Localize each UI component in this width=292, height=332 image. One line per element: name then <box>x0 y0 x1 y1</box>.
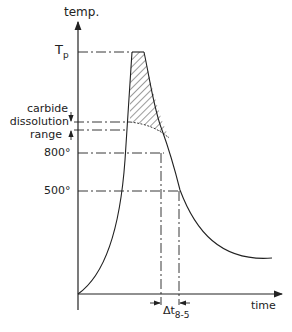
heating-curve <box>78 52 132 294</box>
carbide-label-line-1: carbide <box>6 103 68 115</box>
carbide-label-line-2: dissolution <box>0 116 69 128</box>
x-axis-label: time <box>251 300 276 312</box>
delta-t-sub: 8-5 <box>175 310 190 320</box>
peak-temperature-label: Tp <box>55 44 69 57</box>
carbide-label-line-3: range <box>6 129 62 141</box>
delta-t-label: Δt8-5 <box>163 305 190 317</box>
thermal-cycle-diagram: temp. Tp carbide dissolution range 800° … <box>0 0 292 332</box>
carbide-dissolution-hatch <box>130 52 169 138</box>
delta-t-main: Δt <box>163 304 175 317</box>
peak-label-sub: p <box>63 50 69 60</box>
temp-500-label: 500° <box>44 185 71 197</box>
y-axis-label: temp. <box>64 6 99 18</box>
diagram-canvas <box>0 0 292 332</box>
temp-800-label: 800° <box>44 147 71 159</box>
peak-label-main: T <box>55 42 63 57</box>
cooling-curve <box>144 52 272 258</box>
